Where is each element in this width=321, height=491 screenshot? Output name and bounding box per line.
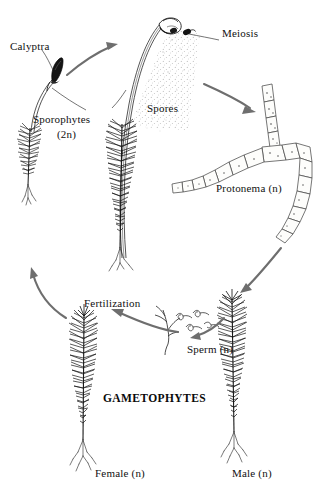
label-meiosis: Meiosis: [222, 27, 258, 39]
arrow-sperm-release: [190, 318, 224, 340]
label-sporophytes-ploidy: (2n): [57, 128, 76, 141]
female-gametophyte: [69, 304, 98, 471]
arrow-zygote-to-sporophyte: [30, 267, 66, 318]
label-protonema: Protonema (n): [216, 182, 282, 195]
label-gametophytes: GAMETOPHYTES: [103, 392, 206, 404]
moss-life-cycle-diagram: Calyptra Sporophytes (2n) Meiosis Spores…: [0, 0, 321, 491]
label-sporophytes: Sporophytes: [33, 113, 90, 125]
label-calyptra: Calyptra: [10, 40, 49, 52]
male-gametophyte: [217, 289, 247, 463]
arrow-sporophyte-growth: [67, 42, 118, 75]
diagram-canvas: Calyptra Sporophytes (2n) Meiosis Spores…: [0, 0, 321, 491]
gametophyte-shoot-left: [17, 123, 42, 205]
label-female: Female (n): [95, 467, 145, 480]
label-fertilization: Fertilization: [84, 297, 141, 309]
label-male: Male (n): [232, 467, 272, 480]
arrow-protonema-to-gametophyte: [240, 248, 281, 293]
label-spores: Spores: [147, 102, 178, 114]
label-sperm: Sperm (n): [187, 343, 233, 356]
spore-cloud: [120, 24, 212, 136]
